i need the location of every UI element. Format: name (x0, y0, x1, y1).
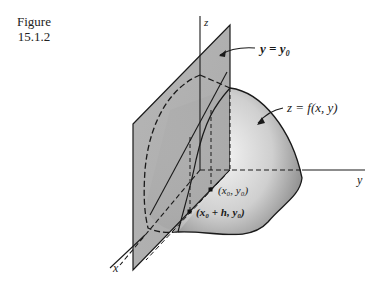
plane-label: y = y₀ (258, 41, 290, 56)
y-axis-label: y (356, 173, 363, 187)
point-label-x0-y0: (x₀, y₀) (218, 184, 249, 197)
surface-diagram: z y x y = y₀ z = f(x, y) (x₀, y₀) (x₀ + … (0, 0, 392, 291)
z-axis-label: z (203, 16, 209, 28)
point-x0-y0 (209, 188, 213, 192)
surface-label: z = f(x, y) (286, 100, 338, 115)
point-x0h-y0 (188, 210, 192, 214)
x-axis-label: x (112, 261, 119, 275)
point-label-x0h-y0: (x₀ + h, y₀) (196, 206, 245, 219)
